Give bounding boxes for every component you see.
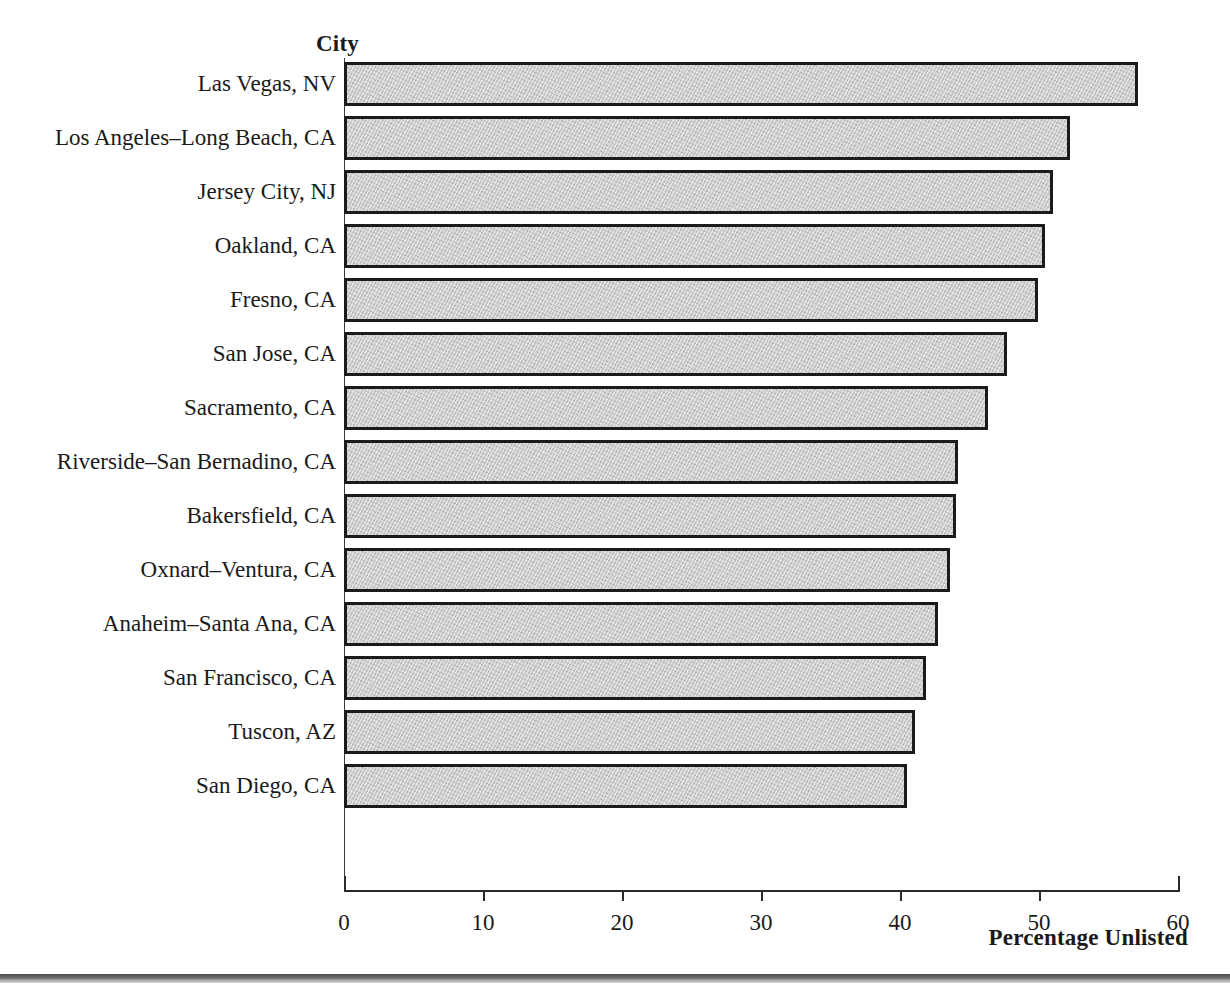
category-label: Jersey City, NJ <box>0 179 336 205</box>
category-label: Riverside–San Bernadino, CA <box>0 449 336 475</box>
bar <box>344 116 1070 160</box>
x-axis-tick-label: 0 <box>304 910 384 936</box>
category-label: Las Vegas, NV <box>0 71 336 97</box>
bar <box>344 764 907 808</box>
bar <box>344 494 956 538</box>
category-label: San Jose, CA <box>0 341 336 367</box>
bar <box>344 440 958 484</box>
bar <box>344 332 1007 376</box>
bar <box>344 62 1138 106</box>
category-label: Tuscon, AZ <box>0 719 336 745</box>
x-axis-tick <box>622 890 624 901</box>
category-label: Anaheim–Santa Ana, CA <box>0 611 336 637</box>
x-axis-tick-label: 30 <box>721 910 801 936</box>
x-axis-tick-label: 40 <box>860 910 940 936</box>
bar <box>344 170 1053 214</box>
category-label: Oxnard–Ventura, CA <box>0 557 336 583</box>
bar <box>344 548 950 592</box>
x-axis-title: Percentage Unlisted <box>989 925 1188 951</box>
x-axis-tick-label: 20 <box>582 910 662 936</box>
category-label: Fresno, CA <box>0 287 336 313</box>
category-label: San Diego, CA <box>0 773 336 799</box>
x-axis-tick <box>483 890 485 901</box>
category-label: Sacramento, CA <box>0 395 336 421</box>
x-axis-tick <box>761 890 763 901</box>
category-label: Bakersfield, CA <box>0 503 336 529</box>
y-axis-title: City <box>316 31 359 56</box>
bar <box>344 656 926 700</box>
bar <box>344 278 1038 322</box>
bar <box>344 602 938 646</box>
x-axis-tick <box>1178 876 1180 892</box>
bar-chart: City 0102030405060 Las Vegas, NVLos Ange… <box>0 0 1230 1002</box>
category-label: Oakland, CA <box>0 233 336 259</box>
bar <box>344 386 988 430</box>
footer-rule <box>0 974 1230 983</box>
category-label: San Francisco, CA <box>0 665 336 691</box>
bar <box>344 224 1045 268</box>
x-axis-tick <box>1039 890 1041 901</box>
bar <box>344 710 915 754</box>
x-axis-tick <box>900 890 902 901</box>
x-axis-tick <box>344 876 346 892</box>
x-axis-tick-label: 10 <box>443 910 523 936</box>
plot-area: 0102030405060 <box>344 58 1178 890</box>
category-label: Los Angeles–Long Beach, CA <box>0 125 336 151</box>
